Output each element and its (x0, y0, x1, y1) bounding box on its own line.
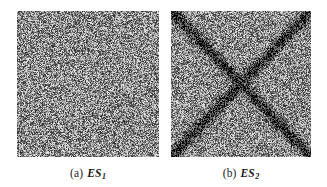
figure-panel-es1 (17, 11, 159, 157)
figure-container: (a)ES1 (b)ES2 (0, 0, 327, 187)
panel-caption-es1: (a)ES1 (17, 164, 159, 182)
caption-symbol-b: ES (240, 167, 254, 179)
figure-panel-es2 (171, 11, 311, 157)
caption-subscript-a: 1 (102, 172, 106, 181)
noise-image-es1 (17, 11, 159, 157)
caption-index-a: (a) (70, 167, 83, 179)
noise-image-es2 (171, 11, 311, 157)
caption-symbol-a: ES (87, 167, 101, 179)
noise-canvas-es1 (17, 11, 159, 157)
caption-subscript-b: 2 (255, 172, 259, 181)
noise-canvas-es2 (171, 11, 311, 157)
panel-caption-es2: (b)ES2 (171, 164, 311, 182)
caption-index-b: (b) (223, 167, 237, 179)
